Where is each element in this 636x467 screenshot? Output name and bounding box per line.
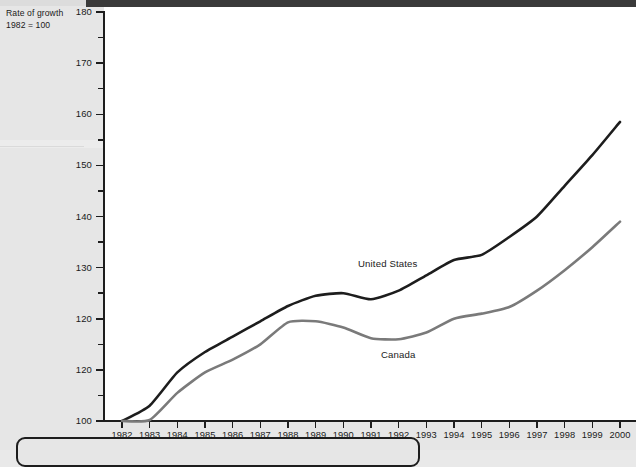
series-line-united-states [122,122,620,421]
series-label-united-states: United States [358,258,418,269]
series-line-canada [122,222,620,422]
series-label-canada: Canada [381,349,416,360]
